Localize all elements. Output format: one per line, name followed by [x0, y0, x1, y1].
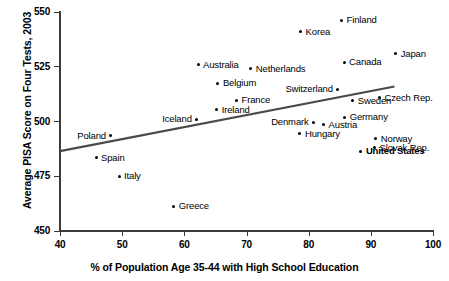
data-point-label: Netherlands [256, 64, 306, 74]
data-point [172, 205, 175, 208]
y-tick-label: 500 [24, 117, 50, 127]
data-point [312, 121, 315, 124]
y-tick-mark [54, 121, 59, 122]
x-tick-mark [184, 231, 185, 236]
data-point [216, 82, 219, 85]
data-point-label: Denmark [271, 117, 309, 127]
x-tick-mark [247, 231, 248, 236]
x-tick-mark [122, 231, 123, 236]
data-point [195, 118, 198, 121]
x-tick-mark [309, 231, 310, 236]
data-point-label: Greece [179, 201, 209, 211]
x-tick-mark [371, 231, 372, 236]
data-point-label: United States [366, 146, 425, 156]
data-point [197, 63, 200, 66]
data-point-label: Belgium [223, 78, 256, 88]
data-point [394, 52, 397, 55]
data-point [299, 30, 302, 33]
data-point-label: Czech Rep. [385, 93, 433, 103]
data-point-label: Switzerland [285, 84, 332, 94]
data-point-label: Korea [306, 27, 331, 37]
x-tick-mark [433, 231, 434, 236]
plot-area: FinlandKoreaJapanCanadaAustraliaNetherla… [60, 12, 433, 231]
data-point [215, 108, 218, 111]
y-tick-mark [54, 66, 59, 67]
data-point-label: Finland [347, 15, 377, 25]
data-point-label: Sweden [358, 96, 391, 106]
x-tick-label: 80 [294, 240, 324, 250]
data-point-label: Iceland [162, 114, 192, 124]
data-point-label: Italy [124, 171, 141, 181]
y-tick-label: 450 [24, 226, 50, 236]
x-axis-title: % of Population Age 35-44 with High Scho… [0, 261, 449, 273]
data-point [109, 134, 112, 137]
data-point-label: Canada [349, 57, 381, 67]
y-tick-mark [54, 231, 59, 232]
data-point [249, 67, 252, 70]
x-tick-mark [60, 231, 61, 236]
data-point [336, 88, 339, 91]
data-point [351, 99, 354, 102]
data-point [374, 137, 377, 140]
data-point [359, 150, 362, 153]
data-point [235, 99, 238, 102]
y-tick-label: 475 [24, 171, 50, 181]
data-point-label: Poland [77, 131, 106, 141]
data-point-label: Australia [203, 60, 239, 70]
x-tick-label: 60 [169, 240, 199, 250]
pisa-scatter-chart: Average PISA Score on Four Tests, 2003 5… [0, 0, 449, 281]
x-tick-label: 40 [45, 240, 75, 250]
x-tick-label: 50 [107, 240, 137, 250]
data-point [340, 19, 343, 22]
x-tick-label: 100 [418, 240, 448, 250]
data-point [343, 61, 346, 64]
data-point-label: Hungary [305, 129, 340, 139]
x-tick-label: 70 [232, 240, 262, 250]
y-tick-mark [54, 176, 59, 177]
data-point-label: Japan [401, 49, 426, 59]
data-point [118, 175, 121, 178]
y-tick-label: 550 [24, 7, 50, 17]
data-point [322, 123, 325, 126]
data-point [298, 132, 301, 135]
data-point-label: Spain [101, 153, 125, 163]
y-tick-mark [54, 12, 59, 13]
data-point [95, 156, 98, 159]
x-tick-label: 90 [356, 240, 386, 250]
y-tick-label: 525 [24, 62, 50, 72]
data-point-label: Ireland [222, 105, 250, 115]
